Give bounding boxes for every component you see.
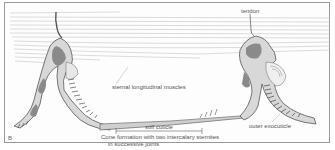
- cone-formation-label-2: in successive joints: [108, 141, 159, 148]
- left-cone: [14, 38, 110, 130]
- panel-label: B: [8, 135, 12, 141]
- sternal-muscles-label: sternal longitudinal muscles: [112, 84, 186, 91]
- cone-formation-label-1: Cone formation with two intercalary ster…: [101, 134, 219, 141]
- sternal-muscle-leader: [116, 67, 128, 84]
- outer-exocuticle-label: outer exocuticle: [249, 123, 291, 130]
- right-cone: [240, 36, 317, 124]
- tendon-label: tendon: [241, 8, 259, 15]
- stiff-cuticle-label: stiff cuticle: [145, 124, 173, 131]
- right-tendon: [250, 14, 254, 36]
- exocuticle-leader: [272, 114, 280, 122]
